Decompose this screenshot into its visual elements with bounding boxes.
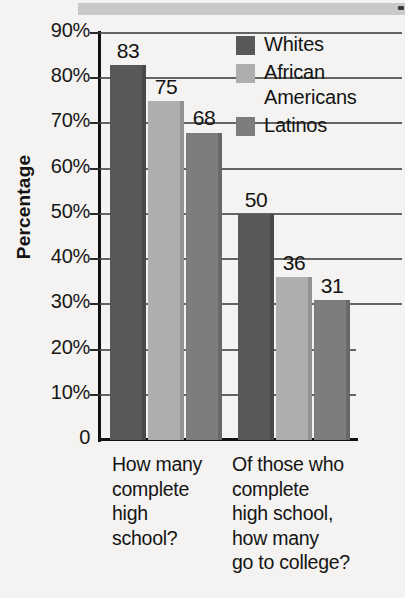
- bar-shading: [308, 277, 312, 440]
- legend-item-latinos[interactable]: Latinos: [236, 113, 404, 138]
- chart-legend: WhitesAfricanAmericansLatinos: [236, 32, 404, 141]
- x-category-label-0: How manycompletehighschool?: [112, 452, 237, 550]
- y-tick-label-20: 20%: [10, 336, 90, 359]
- bar-value-label: 31: [308, 274, 356, 298]
- y-tick-label-40: 40%: [10, 245, 90, 268]
- bar-african-americans-group-1: [276, 277, 312, 440]
- bar-african-americans-group-0: [148, 101, 184, 440]
- x-axis-category-labels: How manycompletehighschool? Of those who…: [98, 452, 388, 598]
- legend-swatch-icon: [236, 36, 255, 55]
- y-axis-tick-labels: 90%80%70%60%50%40%30%20%10%0: [0, 0, 90, 598]
- bar-whites-group-1: [238, 214, 274, 440]
- y-tick-label-50: 50%: [10, 200, 90, 223]
- bar-shading: [142, 65, 146, 440]
- legend-item-label: AfricanAmericans: [264, 60, 357, 110]
- legend-item-label: Whites: [264, 32, 324, 57]
- legend-item-label: Latinos: [264, 113, 327, 138]
- bar-shading: [270, 214, 274, 440]
- bar-value-label: 36: [270, 251, 318, 275]
- y-tick-label-0: 0: [10, 426, 90, 449]
- bar-value-label: 68: [180, 106, 228, 130]
- bar-chart-figure: Percentage 90%80%70%60%50%40%30%20%10%0 …: [0, 0, 405, 598]
- y-tick-label-30: 30%: [10, 290, 90, 313]
- x-category-label-1: Of those whocompletehigh school,how many…: [232, 452, 392, 575]
- legend-item-whites[interactable]: Whites: [236, 32, 404, 57]
- bar-value-label: 50: [232, 188, 280, 212]
- legend-swatch-icon: [236, 64, 255, 83]
- y-tick-label-90: 90%: [10, 19, 90, 42]
- bar-value-label: 75: [142, 75, 190, 99]
- y-tick-label-70: 70%: [10, 109, 90, 132]
- y-tick-label-80: 80%: [10, 64, 90, 87]
- legend-item-african-americans[interactable]: AfricanAmericans: [236, 60, 404, 110]
- y-tick-label-60: 60%: [10, 155, 90, 178]
- bar-value-label: 83: [104, 39, 152, 63]
- bar-whites-group-0: [110, 65, 146, 440]
- bar-shading: [346, 300, 350, 440]
- legend-swatch-icon: [236, 117, 255, 136]
- bar-latinos-group-1: [314, 300, 350, 440]
- bar-shading: [180, 101, 184, 440]
- y-tick-label-10: 10%: [10, 381, 90, 404]
- bar-latinos-group-0: [186, 133, 222, 441]
- bar-shading: [218, 133, 222, 441]
